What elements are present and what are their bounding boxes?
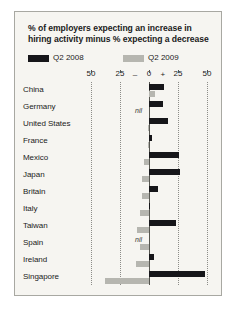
bar-row: China (15, 82, 223, 99)
bar-q2-2009 (140, 244, 149, 250)
chart-title-line-1: % of employers expecting an increase in (28, 23, 192, 33)
bar-row: Japan (15, 167, 223, 184)
bar-group (15, 167, 223, 184)
x-axis-tick-mark (207, 70, 208, 73)
bar-q2-2009 (149, 91, 155, 97)
bar-group: nil (15, 99, 223, 116)
bar-row: Mexico (15, 150, 223, 167)
bar-rows: ChinaGermanynilUnited StatesFranceMexico… (15, 82, 223, 286)
bar-q2-2008 (149, 186, 158, 192)
x-axis-tick-mark (91, 70, 92, 73)
bar-group (15, 252, 223, 269)
bar-q2-2009 (140, 210, 149, 216)
bar-row: Singapore (15, 269, 223, 286)
bar-row: United States (15, 116, 223, 133)
chart-panel: % of employers expecting an increase in … (14, 11, 222, 296)
chart-title: % of employers expecting an increase in … (28, 23, 213, 46)
bar-q2-2009 (142, 176, 149, 182)
bar-group (15, 269, 223, 286)
bar-q2-2008 (149, 118, 168, 124)
bar-q2-2008 (149, 152, 179, 158)
bar-group (15, 184, 223, 201)
chart-legend: Q2 2008 Q2 2009 (28, 53, 216, 64)
legend-swatch-icon-q2-2009 (123, 55, 144, 62)
bar-q2-2008 (149, 203, 150, 209)
bar-q2-2008 (149, 169, 180, 175)
bar-q2-2009 (142, 193, 149, 199)
bar-group (15, 133, 223, 150)
bar-q2-2009 (148, 142, 149, 148)
bar-q2-2009 (105, 278, 149, 284)
bar-group: nil (15, 235, 223, 252)
x-axis-tick-mark (120, 70, 121, 73)
bar-q2-2008 (149, 220, 176, 226)
bar-q2-2008 (149, 271, 205, 277)
bar-q2-2008 (149, 135, 152, 141)
legend-label-q2-2008: Q2 2008 (53, 53, 84, 62)
bar-row: Taiwan (15, 218, 223, 235)
bar-q2-2008 (149, 101, 163, 107)
bar-group (15, 82, 223, 99)
legend-swatch-icon-q2-2008 (28, 55, 49, 62)
x-axis-tick-mark (178, 70, 179, 73)
nil-label: nil (135, 107, 142, 114)
bar-group (15, 116, 223, 133)
bar-row: France (15, 133, 223, 150)
bar-q2-2008 (149, 84, 164, 90)
bar-q2-2008 (149, 254, 154, 260)
bar-group (15, 201, 223, 218)
legend-label-q2-2009: Q2 2009 (148, 53, 179, 62)
x-axis-tick-labels: 502502550–+ (15, 69, 223, 81)
chart-title-line-2: hiring activity minus % expecting a decr… (28, 34, 209, 44)
nil-label: nil (135, 236, 142, 243)
bar-q2-2009 (136, 261, 149, 267)
bar-row: Britain (15, 184, 223, 201)
bar-row: Ireland (15, 252, 223, 269)
x-axis-minus-sign: – (133, 70, 137, 79)
bar-group (15, 150, 223, 167)
bar-group (15, 218, 223, 235)
bar-row: Italy (15, 201, 223, 218)
bar-row: Germanynil (15, 99, 223, 116)
bar-q2-2009 (148, 125, 149, 131)
bar-q2-2009 (137, 227, 149, 233)
plot-area: 502502550–+ ChinaGermanynilUnited States… (15, 69, 223, 291)
x-axis-plus-sign: + (161, 70, 166, 79)
bar-q2-2009 (144, 159, 149, 165)
x-axis-tick-mark (149, 70, 150, 73)
bar-row: Spainnil (15, 235, 223, 252)
